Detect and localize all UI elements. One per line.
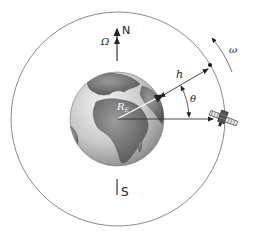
orbit-diagram: ω N Ω RE h θ [0,0,253,242]
altitude-label: h [176,68,183,81]
angle-arc [181,86,189,117]
orbital-rate-label: ω [229,44,237,55]
south-label: S [121,185,129,199]
angle-label: θ [190,93,196,104]
earth-rotation-label: Ω [100,36,109,47]
rotation-arrow-icon [114,37,120,44]
north-label: N [122,24,130,37]
satellite-position-dot [208,63,212,67]
